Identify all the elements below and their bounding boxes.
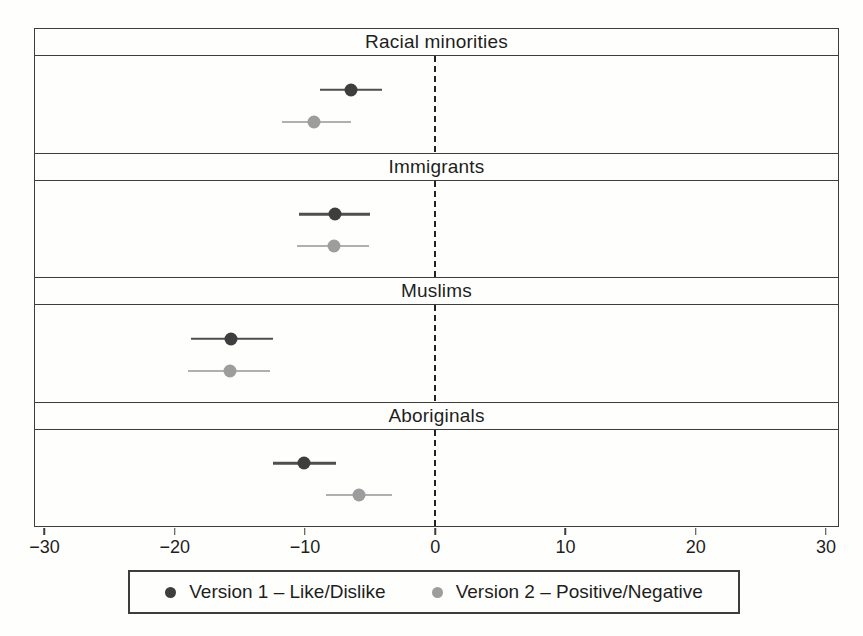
panel-title: Aboriginals (388, 405, 484, 427)
panel-racial-minorities (35, 56, 838, 154)
x-tick-label: 30 (816, 537, 836, 558)
v1-point-estimate (344, 83, 357, 96)
panel-header-immigrants: Immigrants (35, 154, 838, 181)
v2-point-estimate (308, 115, 321, 128)
coefficient-plot-figure: Racial minorities Immigrants Muslims Abo… (0, 0, 863, 636)
panel-header-muslims: Muslims (35, 278, 838, 305)
plot-area: Racial minorities Immigrants Muslims Abo… (34, 28, 839, 527)
x-tick-label: −20 (159, 537, 190, 558)
panel-title: Racial minorities (365, 31, 508, 53)
x-tick-label: 10 (555, 537, 575, 558)
x-tick-label: 0 (430, 537, 440, 558)
zero-reference-line (434, 305, 436, 402)
x-tick-label: 20 (686, 537, 706, 558)
panel-title: Immigrants (389, 156, 485, 178)
x-tick-mark (695, 528, 697, 535)
x-tick-label: −30 (29, 537, 60, 558)
panel-immigrants (35, 181, 838, 279)
legend-item-version2: Version 2 – Positive/Negative (432, 581, 703, 603)
x-tick-label: −10 (290, 537, 321, 558)
x-tick-mark (44, 528, 46, 535)
panel-header-racial-minorities: Racial minorities (35, 29, 838, 56)
gray-circle-icon (432, 587, 443, 598)
x-axis: −30−20−100102030 (34, 527, 839, 561)
x-tick-mark (304, 528, 306, 535)
legend-label: Version 1 – Like/Dislike (189, 581, 385, 603)
v2-point-estimate (327, 240, 340, 253)
x-tick-mark (565, 528, 567, 535)
v1-point-estimate (225, 332, 238, 345)
dark-circle-icon (165, 587, 176, 598)
panel-header-aboriginals: Aboriginals (35, 403, 838, 430)
legend-label: Version 2 – Positive/Negative (456, 581, 703, 603)
legend: Version 1 – Like/Dislike Version 2 – Pos… (128, 570, 740, 614)
x-tick-mark (825, 528, 827, 535)
panel-aboriginals (35, 430, 838, 527)
v1-point-estimate (297, 457, 310, 470)
x-tick-mark (434, 528, 436, 535)
legend-item-version1: Version 1 – Like/Dislike (165, 581, 385, 603)
panel-muslims (35, 305, 838, 403)
v1-point-estimate (329, 208, 342, 221)
zero-reference-line (434, 56, 436, 153)
zero-reference-line (434, 181, 436, 278)
x-tick-mark (174, 528, 176, 535)
v2-point-estimate (352, 489, 365, 502)
panel-title: Muslims (401, 280, 472, 302)
zero-reference-line (434, 430, 436, 527)
v2-point-estimate (223, 364, 236, 377)
